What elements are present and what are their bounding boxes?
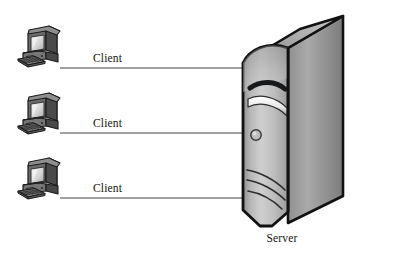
server-tower-icon[interactable]	[243, 16, 343, 226]
network-diagram	[0, 0, 393, 257]
client-icon-2[interactable]	[18, 93, 60, 134]
client-label-3: Client	[93, 182, 122, 194]
client-icon-3[interactable]	[18, 158, 60, 199]
server-label: Server	[222, 232, 342, 244]
power-button[interactable]	[251, 130, 261, 140]
diagram-canvas: Client Client Client Server	[0, 0, 393, 257]
client-label-1: Client	[93, 52, 122, 64]
client-icon-1[interactable]	[18, 26, 60, 67]
connection-lines	[60, 68, 243, 198]
client-label-2: Client	[93, 117, 122, 129]
